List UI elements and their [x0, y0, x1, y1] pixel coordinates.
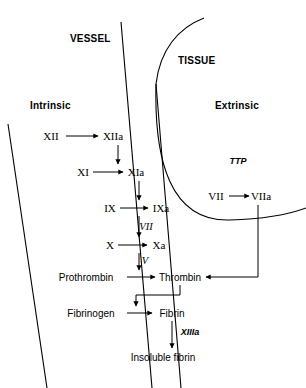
node-prothrombin: Prothrombin	[59, 272, 113, 283]
node-factor-xi: XI	[77, 167, 89, 178]
region-label-vessel: VESSEL	[70, 33, 111, 44]
region-label-extrinsic: Extrinsic	[215, 100, 259, 111]
cofactor-label-v: V	[142, 255, 148, 266]
region-label-intrinsic: Intrinsic	[30, 100, 71, 111]
node-factor-xii: XII	[43, 131, 58, 142]
node-thrombin: Thrombin	[159, 272, 201, 283]
node-factor-vii: VII	[208, 191, 223, 202]
node-factor-ix: IX	[104, 203, 116, 214]
arrow-viia-to-thrombin	[206, 205, 258, 277]
node-factor-viia: VIIa	[251, 191, 271, 202]
cofactor-label-xiiia: XIIIa	[181, 327, 200, 338]
node-factor-ixa: IXa	[153, 203, 170, 214]
node-fibrinogen: Fibrinogen	[67, 308, 114, 319]
node-fibrin: Fibrin	[159, 308, 184, 319]
region-label-tissue: TISSUE	[178, 55, 215, 66]
node-factor-xia: XIa	[128, 167, 145, 178]
cofactor-label-ttp: TTP	[230, 156, 247, 167]
arrow-thrombin-feedback-loop	[136, 285, 180, 306]
cofactor-label-vii: VII	[139, 221, 152, 232]
node-factor-xiia: XIIa	[103, 131, 123, 142]
node-factor-xa: Xa	[153, 240, 166, 251]
node-factor-x: X	[106, 240, 114, 251]
node-insoluble-fibrin: Insoluble fibrin	[131, 352, 195, 363]
coagulation-cascade-figure: VESSEL TISSUE Intrinsic Extrinsic XII XI…	[0, 0, 306, 388]
